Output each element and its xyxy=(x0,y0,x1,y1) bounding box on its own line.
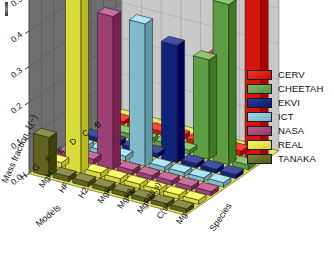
legend-label: REAL xyxy=(278,140,303,150)
legend-swatch xyxy=(247,84,272,94)
legend-item-cerv[interactable]: CERV xyxy=(247,68,333,81)
ztick-label-2: 0.2 xyxy=(9,100,25,115)
ztick-label-5: 0.5 xyxy=(9,0,25,9)
legend-item-ekvi[interactable]: EKVI xyxy=(247,96,333,109)
bar-nasa-H2-side xyxy=(113,11,120,169)
legend: CERVCHEETAHEKVIICTNASAREALTANAKA xyxy=(247,68,333,166)
bar-cheetah-MgF2ls-front xyxy=(193,56,209,160)
legend-label: CERV xyxy=(278,70,305,80)
legend-label: NASA xyxy=(278,126,304,136)
bar-real-HF-side xyxy=(81,0,88,173)
legend-label: CHEETAH xyxy=(278,84,323,94)
legend-item-nasa[interactable]: NASA xyxy=(247,124,333,137)
legend-label: ICT xyxy=(278,112,294,122)
legend-swatch xyxy=(247,140,272,150)
legend-swatch xyxy=(247,70,272,80)
bar-ekvi-MgF2-side xyxy=(177,40,184,163)
legend-label: EKVI xyxy=(278,98,300,108)
bar-cheetah-Cs-side xyxy=(229,0,236,165)
legend-item-tanaka[interactable]: TANAKA xyxy=(247,152,333,165)
ztick-mark xyxy=(25,31,29,33)
models-axis-title: Models xyxy=(34,202,63,229)
legend-swatch xyxy=(247,154,272,164)
bar-ict-MgF-front xyxy=(129,20,145,167)
ztick-label-4: 0.4 xyxy=(9,29,25,44)
legend-item-real[interactable]: REAL xyxy=(247,138,333,151)
legend-item-cheetah[interactable]: CHEETAH xyxy=(247,82,333,95)
bar-nasa-H2-front xyxy=(97,12,113,169)
ztick-mark xyxy=(25,67,29,69)
bar-ict-MgF-side xyxy=(145,19,152,167)
species-axis-title: Species xyxy=(207,201,233,234)
legend-swatch xyxy=(247,112,272,122)
bar-tanaka-MgH-side xyxy=(49,132,56,176)
ztick-mark xyxy=(25,102,29,104)
legend-swatch xyxy=(247,98,272,108)
bar-cheetah-MgF2ls-side xyxy=(209,55,216,160)
ztick-label-3: 0.3 xyxy=(9,65,25,80)
figure-3d-bar-chart: 0.00.10.20.30.40.5Mass fraction, ξ(−)HGF… xyxy=(0,0,334,278)
legend-swatch xyxy=(247,126,272,136)
legend-label: TANAKA xyxy=(278,154,316,164)
legend-item-ict[interactable]: ICT xyxy=(247,110,333,123)
bar-ekvi-MgF2-front xyxy=(161,41,177,163)
